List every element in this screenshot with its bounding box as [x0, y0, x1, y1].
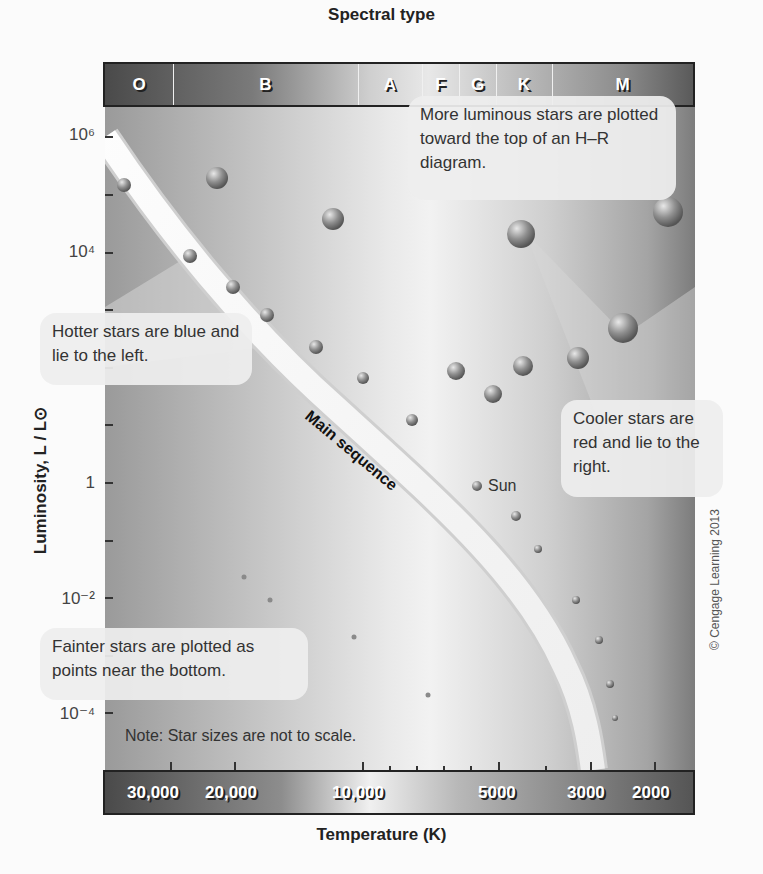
- copyright-text: © Cengage Learning 2013: [708, 509, 722, 650]
- star: [534, 545, 542, 553]
- white-dwarf: [352, 635, 357, 640]
- spectral-type-a: A: [358, 64, 422, 105]
- giant-star: [206, 167, 228, 189]
- callout-luminous: More luminous stars are plotted toward t…: [408, 96, 676, 200]
- x-tick-30000: 30,000: [127, 772, 179, 813]
- giant-star: [447, 362, 465, 380]
- giant-star: [484, 385, 502, 403]
- star: [595, 636, 603, 644]
- star: [511, 511, 521, 521]
- sun-star: [472, 481, 482, 491]
- star: [572, 596, 580, 604]
- note-text: Note: Star sizes are not to scale.: [125, 727, 356, 745]
- y-tick-1e-4: 10⁻⁴: [60, 703, 95, 724]
- y-tick-1e4: 10⁴: [69, 242, 95, 262]
- star: [357, 372, 369, 384]
- white-dwarf: [242, 575, 247, 580]
- callout-cooler: Cooler stars are red and lie to the righ…: [561, 400, 723, 497]
- chart-title: Spectral type: [0, 5, 763, 25]
- sun-label: Sun: [488, 477, 516, 495]
- x-tick-3000: 3000: [567, 772, 605, 813]
- giant-star: [653, 197, 683, 227]
- x-axis-label: Temperature (K): [0, 825, 763, 845]
- star: [117, 178, 131, 192]
- giant-star: [322, 208, 344, 230]
- y-tick-1e-2: 10⁻²: [61, 588, 95, 609]
- star: [309, 340, 323, 354]
- giant-star: [608, 313, 638, 343]
- white-dwarf: [268, 598, 273, 603]
- x-tick-5000: 5000: [478, 772, 516, 813]
- giant-star: [507, 220, 535, 248]
- star: [260, 308, 274, 322]
- callout-fainter: Fainter stars are plotted as points near…: [40, 628, 308, 700]
- star: [226, 280, 240, 294]
- star: [612, 715, 618, 721]
- spectral-type-o: O: [105, 64, 173, 105]
- x-tick-10000: 10,000: [332, 772, 384, 813]
- giant-star: [567, 347, 589, 369]
- y-tick-1e6: 10⁶: [69, 125, 95, 145]
- temperature-bar: 30,000 20,000 10,000 5000 3000 2000: [103, 770, 695, 815]
- x-tick-2000: 2000: [632, 772, 670, 813]
- star: [606, 680, 614, 688]
- star: [183, 249, 197, 263]
- giant-star: [513, 356, 533, 376]
- y-tick-1: 1: [86, 473, 95, 493]
- callout-hotter: Hotter stars are blue and lie to the lef…: [40, 313, 252, 385]
- y-axis-label: Luminosity, L / L⊙: [30, 381, 51, 581]
- spectral-type-b: B: [173, 64, 358, 105]
- x-tick-20000: 20,000: [205, 772, 257, 813]
- white-dwarf: [426, 693, 431, 698]
- star: [406, 414, 418, 426]
